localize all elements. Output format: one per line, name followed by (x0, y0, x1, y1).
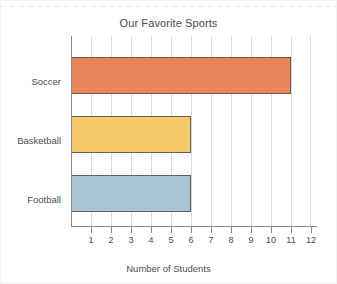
chart-container: Our Favorite Sports Soccer Basketball Fo… (0, 0, 337, 284)
y-axis-label-soccer: Soccer (31, 76, 61, 87)
top-divider (1, 6, 336, 7)
x-tick-mark (171, 227, 172, 233)
x-tick-mark (91, 227, 92, 233)
x-tick-mark (231, 227, 232, 233)
gridline-12 (310, 36, 311, 226)
x-tick-label: 11 (281, 235, 301, 245)
x-tick-label: 6 (181, 235, 201, 245)
x-tick-mark (111, 227, 112, 233)
chart-title: Our Favorite Sports (1, 17, 336, 29)
x-tick-label: 2 (101, 235, 121, 245)
x-tick-label: 7 (201, 235, 221, 245)
x-tick-mark (271, 227, 272, 233)
y-axis-label-football: Football (27, 194, 61, 205)
plot-area (71, 36, 311, 226)
x-tick-mark (291, 227, 292, 233)
x-tick-label: 10 (261, 235, 281, 245)
x-axis-title: Number of Students (1, 263, 336, 274)
x-axis-line (71, 226, 317, 227)
bar-football[interactable] (71, 175, 191, 212)
x-tick-label: 4 (141, 235, 161, 245)
x-tick-mark (311, 227, 312, 233)
x-tick-label: 5 (161, 235, 181, 245)
x-tick-label: 12 (301, 235, 321, 245)
bar-basketball[interactable] (71, 116, 191, 153)
x-tick-label: 3 (121, 235, 141, 245)
y-axis-line (71, 36, 72, 226)
gridline-11 (291, 36, 292, 226)
x-tick-mark (211, 227, 212, 233)
x-tick-mark (131, 227, 132, 233)
x-tick-label: 8 (221, 235, 241, 245)
x-tick-label: 1 (81, 235, 101, 245)
bar-soccer[interactable] (71, 57, 291, 94)
x-tick-mark (251, 227, 252, 233)
x-tick-mark (191, 227, 192, 233)
x-tick-mark (151, 227, 152, 233)
y-axis-label-basketball: Basketball (17, 135, 61, 146)
x-tick-label: 9 (241, 235, 261, 245)
